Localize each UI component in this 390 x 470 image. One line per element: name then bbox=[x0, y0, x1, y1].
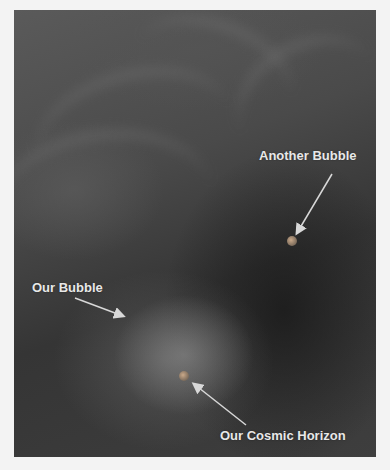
cosmic-bubbles-image: Another Bubble Our Bubble Our Cosmic Hor… bbox=[14, 10, 376, 457]
pointer-arrows bbox=[14, 10, 376, 457]
our-cosmic-horizon-label: Our Cosmic Horizon bbox=[220, 428, 346, 443]
another-bubble-arrow bbox=[297, 174, 332, 233]
our-bubble-arrow bbox=[75, 298, 123, 316]
cosmic-horizon-arrow bbox=[194, 384, 246, 425]
our-bubble-label: Our Bubble bbox=[32, 280, 103, 295]
another-bubble-label: Another Bubble bbox=[259, 148, 357, 163]
